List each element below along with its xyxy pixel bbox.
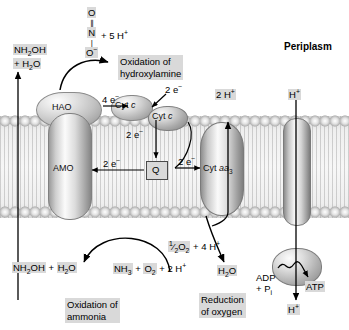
- proton-exit-label: H+: [287, 303, 300, 315]
- proton-influx-label: H+: [288, 88, 301, 100]
- water-product-label: H2O: [217, 265, 237, 279]
- adp-to-atp-arrow: [278, 262, 308, 277]
- ammonia-substrate-label: NH3 + O2 + 2 H+: [113, 262, 186, 277]
- electron-label-hao-cytc: 4 e−: [102, 93, 119, 105]
- oxygen-substrate-label: 1⁄2O2 + 4 H+: [168, 240, 220, 255]
- electron-label-q-amo: 2 e−: [103, 157, 120, 169]
- diagram-canvas: Periplasm HAO AMO Cyt c Cyt c Cyt aa3 Q: [0, 0, 349, 330]
- hao-to-nitrite-arrow: [60, 60, 108, 90]
- caption-reduction-oxygen: Reductionof oxygen: [199, 293, 246, 318]
- nitrite-protons-label: + 5 H+: [101, 29, 128, 41]
- electron-label-cytc-q: 2 e−: [126, 128, 143, 140]
- arrow-overlay: [0, 0, 349, 330]
- electron-label-cytc-cytc: 2 e−: [165, 83, 182, 95]
- hydroxylamine-periplasm-label: NH2OH+ H2O: [13, 44, 47, 72]
- proton-pump-arrow: [212, 122, 228, 226]
- nitrite-structure: O ∥ N | O−: [85, 8, 98, 58]
- atp-label: ATP: [305, 281, 325, 292]
- adp-label: ADP+ Pi: [256, 272, 276, 297]
- hydroxylamine-cytoplasm-label: NH2OH + H2O: [12, 262, 77, 276]
- cytc-to-cytc-electron-arrow: [152, 94, 166, 107]
- proton-pump-label: 2 H+: [215, 88, 236, 100]
- electron-label-cytc-aa3: 2 e−: [178, 155, 195, 167]
- caption-oxidation-ammonia: Oxidation ofammonia: [65, 298, 120, 323]
- caption-oxidation-hydroxylamine: Oxidation ofhydroxylamine: [118, 55, 183, 80]
